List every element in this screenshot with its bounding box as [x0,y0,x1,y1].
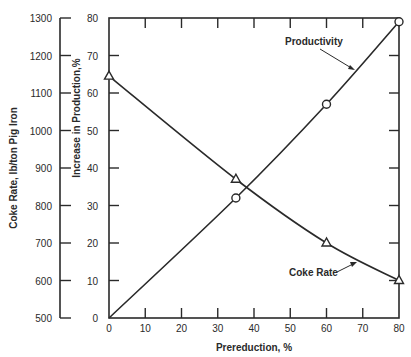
circle-marker-icon [232,194,240,202]
coke-rate-line [109,76,399,280]
triangle-marker-icon [322,238,331,246]
production-tick-label: 10 [87,276,99,287]
coke-tick-label: 800 [35,201,52,212]
plot-border [109,18,399,318]
production-tick-label: 40 [87,163,99,174]
production-tick-label: 0 [92,313,98,324]
triangle-marker-icon [105,71,114,79]
productivity-line [109,22,399,318]
x-tick-label: 50 [285,323,297,334]
production-tick-label: 50 [87,126,99,137]
x-tick-label: 30 [212,323,224,334]
coke-rate-axis: 5006007008009001000110012001300 [30,13,71,324]
x-tick-label: 40 [248,323,260,334]
plot-frame [109,18,399,318]
circle-marker-icon [323,100,331,108]
production-tick-label: 20 [87,238,99,249]
coke-tick-label: 600 [35,276,52,287]
production-axis: 01020304050607080 [87,13,399,324]
productivity-label: Productivity [285,36,343,47]
chart: 5006007008009001000110012001300 01020304… [0,0,411,357]
x-tick-label: 10 [140,323,152,334]
coke-tick-label: 900 [35,163,52,174]
production-tick-label: 70 [87,51,99,62]
x-tick-label: 60 [321,323,333,334]
coke-tick-label: 700 [35,238,52,249]
productivity-arrow [320,49,353,69]
x-tick-label: 70 [357,323,369,334]
x-tick-label: 20 [176,323,188,334]
production-tick-label: 30 [87,201,99,212]
coke-axis-title: Coke Rate, lb/ton Pig Iron [8,107,19,229]
coke-tick-label: 1000 [30,126,53,137]
coke-rate-label: Coke Rate [289,267,338,278]
circle-marker-icon [395,18,403,26]
x-axis-title: Prereduction, % [216,342,292,353]
coke-tick-label: 500 [35,313,52,324]
series-layer [105,18,404,318]
productivity-arrowhead-icon [348,65,355,70]
production-tick-label: 60 [87,88,99,99]
coke-tick-label: 1100 [30,88,52,99]
x-tick-label: 80 [393,323,405,334]
annotations: Productivity Coke Rate [285,36,357,278]
coke-rate-arrowhead-icon [350,262,357,267]
coke-tick-label: 1200 [30,51,53,62]
triangle-marker-icon [231,174,240,182]
production-tick-label: 80 [87,13,99,24]
coke-tick-label: 1300 [30,13,53,24]
production-axis-title: Increase in Production,% [71,58,82,178]
x-tick-label: 0 [106,323,112,334]
